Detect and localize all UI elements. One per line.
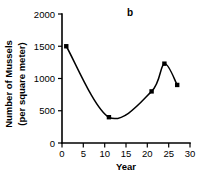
x-tick-label-30: 30 bbox=[185, 148, 196, 159]
x-tick-label-0: 0 bbox=[59, 148, 64, 159]
y-axis-label: Number of Mussels (per square meter) bbox=[3, 40, 27, 128]
y-axis-label-line1: Number of Mussels bbox=[3, 40, 14, 128]
data-point-27 bbox=[175, 83, 179, 87]
x-tick-labels: 0 5 10 15 20 25 30 bbox=[59, 148, 195, 159]
axes bbox=[62, 14, 190, 143]
panel-label: b bbox=[127, 7, 133, 18]
y-tick-label-1500: 1500 bbox=[34, 41, 55, 52]
x-tick-label-20: 20 bbox=[142, 148, 153, 159]
data-point-21 bbox=[149, 89, 153, 93]
y-tick-label-500: 500 bbox=[39, 105, 55, 116]
data-point-24 bbox=[162, 61, 166, 65]
x-tick-label-25: 25 bbox=[163, 148, 174, 159]
mussel-population-figure: Number of Mussels (per square meter) b 0… bbox=[0, 0, 206, 174]
x-tick-label-15: 15 bbox=[121, 148, 132, 159]
data-series-markers bbox=[64, 44, 179, 119]
x-axis-label: Year bbox=[116, 161, 136, 172]
y-tick-label-1000: 1000 bbox=[34, 73, 55, 84]
y-tick-label-2000: 2000 bbox=[34, 9, 55, 20]
data-point-1 bbox=[64, 44, 68, 48]
y-tick-labels: 0 500 1000 1500 2000 bbox=[34, 9, 55, 149]
y-axis-label-line2: (per square meter) bbox=[16, 42, 27, 125]
data-series-curve bbox=[66, 46, 177, 118]
chart-canvas: Number of Mussels (per square meter) b 0… bbox=[0, 0, 206, 174]
y-tick-label-0: 0 bbox=[50, 138, 55, 149]
x-tick-label-5: 5 bbox=[81, 148, 86, 159]
x-tick-label-10: 10 bbox=[99, 148, 110, 159]
data-point-11 bbox=[107, 115, 111, 119]
